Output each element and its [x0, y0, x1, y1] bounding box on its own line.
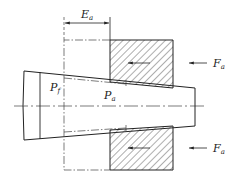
pf-label: Pf [49, 81, 61, 95]
initial-position-outline [64, 40, 110, 170]
hub-section-top [110, 40, 173, 88]
pa-label: Pa [103, 89, 116, 103]
dimension-label: Ea [80, 8, 93, 22]
force-label-bottom: Fa [212, 142, 225, 156]
diagram-canvas: Ea Fa Fa Pf Pa [0, 0, 241, 185]
force-label-top: Fa [212, 57, 225, 71]
